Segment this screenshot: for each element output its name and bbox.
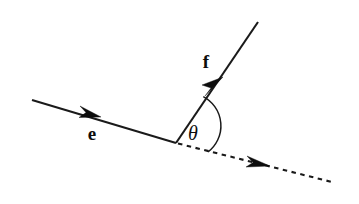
- label-angle-theta: θ: [188, 122, 198, 144]
- vector-angle-diagram: e f θ: [0, 0, 359, 204]
- f-arrowhead-icon: [202, 77, 223, 96]
- label-vector-f: f: [203, 51, 210, 72]
- e-arrowhead-icon: [79, 106, 101, 118]
- label-vector-e: e: [88, 123, 96, 144]
- angle-arc: [203, 97, 221, 152]
- diagram-canvas: e f θ: [0, 0, 359, 204]
- incoming-vector-e-line: [32, 100, 176, 143]
